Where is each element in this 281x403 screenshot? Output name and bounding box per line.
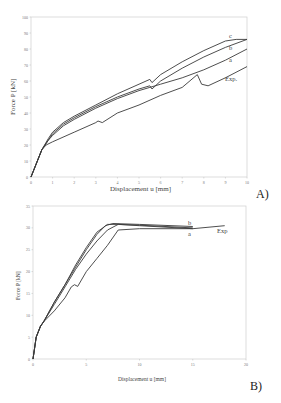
chart-a-label-exp: Exp. (225, 75, 237, 82)
y-tick-label: 40 (24, 111, 28, 116)
chart-b-label-a: a (188, 230, 191, 237)
x-tick-label: 9 (224, 180, 226, 185)
x-tick-label: 20 (244, 362, 248, 367)
figure: 0102030405060708090100 012345678910 Disp… (0, 0, 281, 403)
y-tick-label: 15 (26, 291, 30, 296)
y-tick-label: 90 (24, 31, 28, 36)
x-tick-label: 10 (138, 362, 142, 367)
x-tick-label: 8 (203, 180, 205, 185)
chart-b-y-ticks: 05101520253035 (26, 204, 33, 362)
y-tick-label: 20 (24, 143, 28, 148)
y-tick-label: 30 (24, 127, 28, 132)
y-tick-label: 0 (26, 175, 28, 180)
chart-b-panel-label: B) (250, 379, 262, 393)
x-tick-label: 7 (181, 180, 183, 185)
chart-a-y-ticks: 0102030405060708090100 (22, 15, 31, 180)
chart-b-ylabel: Force P [kN] (15, 271, 21, 300)
chart-b-label-b: b (188, 219, 191, 226)
chart-b: 05101520253035 05101520 Displacement u [… (15, 204, 262, 394)
y-tick-label: 10 (26, 313, 30, 318)
series-c-line (33, 224, 193, 359)
x-tick-label: 0 (32, 362, 34, 367)
y-tick-label: 70 (24, 63, 28, 68)
y-tick-label: 0 (28, 357, 30, 362)
chart-a-label-b: b (229, 44, 232, 51)
x-tick-label: 1 (52, 180, 54, 185)
series-b-line (33, 224, 193, 360)
y-tick-label: 100 (22, 15, 28, 20)
x-tick-label: 5 (85, 362, 87, 367)
chart-a-ylabel: Force P [kN] (9, 79, 17, 115)
chart-a-panel-label: A) (256, 187, 269, 201)
chart-a-xlabel: Displacement u [mm] (110, 185, 171, 193)
series-c-line (31, 39, 247, 177)
chart-a-x-ticks: 012345678910 (30, 177, 249, 185)
x-tick-label: 15 (191, 362, 195, 367)
chart-a-label-c: c (229, 32, 232, 39)
y-tick-label: 35 (26, 204, 30, 209)
series-a-line (31, 49, 247, 177)
y-tick-label: 10 (24, 159, 28, 164)
chart-b-curves (33, 224, 225, 360)
chart-b-label-exp: Exp (217, 227, 227, 234)
y-tick-label: 50 (24, 95, 28, 100)
chart-a-frame (31, 17, 247, 177)
x-tick-label: 3 (95, 180, 97, 185)
chart-a-label-a: a (229, 56, 232, 63)
chart-a-curves (31, 39, 247, 177)
chart-b-x-ticks: 05101520 (32, 359, 248, 367)
x-tick-label: 10 (245, 180, 249, 185)
y-tick-label: 25 (26, 247, 30, 252)
chart-b-xlabel: Displacement u [mm] (118, 376, 166, 382)
y-tick-label: 5 (28, 335, 30, 340)
x-tick-label: 2 (73, 180, 75, 185)
y-tick-label: 20 (26, 269, 30, 274)
series-b-line (31, 39, 247, 177)
chart-a: 0102030405060708090100 012345678910 Disp… (9, 15, 269, 202)
x-tick-label: 0 (30, 180, 32, 185)
series-a-line (33, 224, 193, 359)
y-tick-label: 80 (24, 47, 28, 52)
series-exp-line (31, 67, 247, 177)
y-tick-label: 60 (24, 79, 28, 84)
y-tick-label: 30 (26, 225, 30, 230)
